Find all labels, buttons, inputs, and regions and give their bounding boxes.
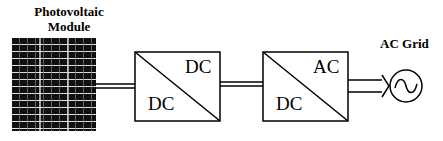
converter1-input-label: DC	[148, 93, 174, 115]
dc-link-1	[96, 84, 135, 88]
arrow-to-grid-icon	[348, 75, 389, 97]
pv-panel-icon	[12, 38, 96, 131]
converter2-input-label: DC	[276, 93, 302, 115]
ac-grid-label: AC Grid	[380, 36, 429, 52]
ac-grid-source-icon	[390, 70, 422, 102]
diagram-canvas	[0, 0, 443, 141]
dc-link-2	[220, 82, 263, 86]
converter1-output-label: DC	[185, 56, 211, 78]
converter2-output-label: AC	[313, 56, 339, 78]
